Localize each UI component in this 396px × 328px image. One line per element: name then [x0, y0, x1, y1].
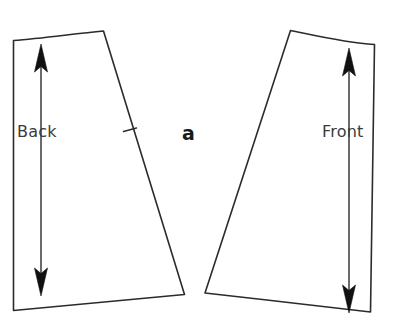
- figure-caption-label: a: [182, 124, 195, 143]
- pattern-diagram-figure: Back Front a: [0, 0, 396, 328]
- back-panel-label: Back: [17, 124, 57, 140]
- back-panel-outline: [14, 31, 185, 311]
- pattern-diagram-canvas: [0, 0, 396, 328]
- front-panel-label: Front: [322, 124, 363, 140]
